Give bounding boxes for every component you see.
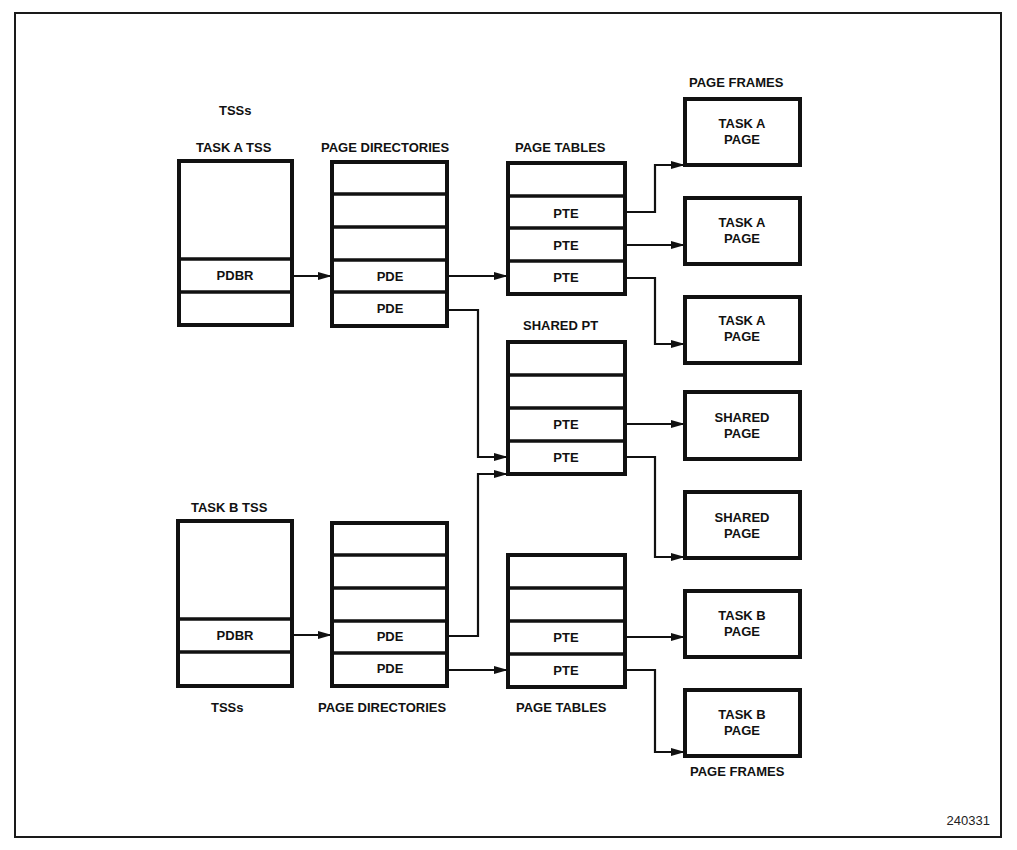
arrow-task-b-pde-to-shared-pt xyxy=(449,474,507,636)
arrow-task-b-pte-to-frame-2 xyxy=(627,670,684,752)
svg-text:PAGE: PAGE xyxy=(724,132,760,147)
label-tss-group-bottom: TSSs xyxy=(211,700,244,715)
task-a-pde-cell-2: PDE xyxy=(377,301,404,316)
label-page-tables-bottom: PAGE TABLES xyxy=(516,700,607,715)
task-a-page-directory: PDE PDE xyxy=(332,162,447,326)
shared-pte-cell-2: PTE xyxy=(553,450,579,465)
svg-text:TASK A: TASK A xyxy=(719,116,767,131)
svg-text:PAGE: PAGE xyxy=(724,526,760,541)
task-a-pte-cell-2: PTE xyxy=(553,238,579,253)
svg-text:PAGE: PAGE xyxy=(724,723,760,738)
label-page-tables-top: PAGE TABLES xyxy=(515,140,606,155)
task-a-page-table: PTE PTE PTE xyxy=(508,163,625,294)
task-a-pte-cell-1: PTE xyxy=(553,206,579,221)
task-b-pte-cell-2: PTE xyxy=(553,663,579,678)
page-frame-task-a-2: TASK A PAGE xyxy=(685,198,800,264)
task-a-tss: PDBR xyxy=(179,161,292,325)
svg-text:PAGE: PAGE xyxy=(724,426,760,441)
svg-text:TASK A: TASK A xyxy=(719,313,767,328)
arrow-shared-pte-to-frame-2 xyxy=(627,457,684,557)
label-page-directories-bottom: PAGE DIRECTORIES xyxy=(318,700,446,715)
task-b-tss: PDBR xyxy=(178,521,292,686)
label-page-frames-top: PAGE FRAMES xyxy=(689,75,784,90)
task-a-pde-cell-1: PDE xyxy=(377,269,404,284)
task-b-pde-cell-1: PDE xyxy=(377,629,404,644)
task-b-pte-cell-1: PTE xyxy=(553,630,579,645)
paging-diagram: TSSs TASK A TSS PAGE DIRECTORIES PAGE TA… xyxy=(0,0,1017,850)
page-frame-task-b-2: TASK B PAGE xyxy=(685,690,800,756)
svg-text:PAGE: PAGE xyxy=(724,624,760,639)
label-page-directories-top: PAGE DIRECTORIES xyxy=(321,140,449,155)
label-page-frames-bottom: PAGE FRAMES xyxy=(690,764,785,779)
label-task-a-tss: TASK A TSS xyxy=(196,140,272,155)
shared-page-table: PTE PTE xyxy=(508,342,625,474)
figure-number: 240331 xyxy=(947,813,990,828)
svg-text:PAGE: PAGE xyxy=(724,231,760,246)
task-b-page-table: PTE PTE xyxy=(508,555,625,687)
arrow-task-a-pde-to-shared-pt xyxy=(449,310,507,457)
page-frame-shared-2: SHARED PAGE xyxy=(685,492,800,558)
svg-text:TASK A: TASK A xyxy=(719,215,767,230)
task-a-pdbr-cell: PDBR xyxy=(217,268,254,283)
task-b-pdbr-cell: PDBR xyxy=(217,628,254,643)
shared-pte-cell-1: PTE xyxy=(553,417,579,432)
page-frame-shared-1: SHARED PAGE xyxy=(685,392,800,459)
svg-text:TASK B: TASK B xyxy=(718,608,765,623)
page-frame-task-a-1: TASK A PAGE xyxy=(685,99,800,165)
page-frame-task-b-1: TASK B PAGE xyxy=(685,591,800,657)
arrow-task-a-pte-to-frame-3 xyxy=(627,278,684,344)
task-b-page-directory: PDE PDE xyxy=(332,523,447,686)
page-frame-task-a-3: TASK A PAGE xyxy=(685,297,800,363)
svg-text:PAGE: PAGE xyxy=(724,329,760,344)
label-tss-group-top: TSSs xyxy=(219,103,252,118)
label-task-b-tss: TASK B TSS xyxy=(191,500,268,515)
svg-text:SHARED: SHARED xyxy=(715,510,770,525)
label-shared-pt: SHARED PT xyxy=(523,318,598,333)
svg-text:TASK B: TASK B xyxy=(718,707,765,722)
task-b-pde-cell-2: PDE xyxy=(377,661,404,676)
svg-text:SHARED: SHARED xyxy=(715,410,770,425)
arrow-task-a-pte-to-frame-1 xyxy=(627,165,684,212)
task-a-pte-cell-3: PTE xyxy=(553,270,579,285)
